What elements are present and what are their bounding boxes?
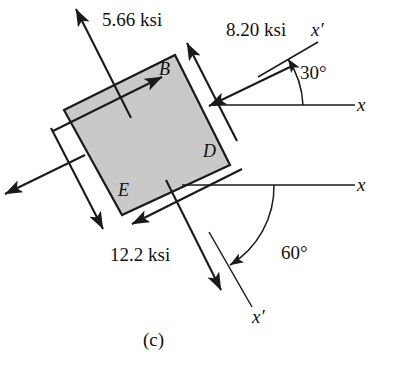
corner-label-d: D — [203, 142, 216, 160]
axis-label-xprime-upper: x′ — [311, 20, 324, 39]
stress-element-figure: 5.66 ksi 8.20 ksi 12.2 ksi x′ x x x′ 30°… — [0, 0, 400, 383]
axis-label-xprime-lower: x′ — [252, 307, 265, 326]
normal-stress-arrow-lower-left — [5, 155, 85, 194]
angle-label-30: 30° — [300, 63, 327, 82]
angle-arc-60 — [230, 185, 274, 265]
stress-label-8-20-ksi: 8.20 ksi — [226, 20, 286, 39]
axis-label-x-upper: x — [357, 95, 365, 114]
figure-canvas — [0, 0, 400, 383]
normal-stress-arrow-upper-right — [209, 67, 290, 106]
axis-line-xprime-lower — [209, 232, 252, 307]
corner-label-e: E — [118, 181, 129, 199]
axis-label-x-lower: x — [357, 175, 365, 194]
normal-stress-arrow-lower-right — [166, 180, 221, 290]
stress-label-12-2-ksi: 12.2 ksi — [110, 245, 170, 264]
angle-label-60: 60° — [281, 243, 308, 262]
stress-label-5-66-ksi: 5.66 ksi — [102, 10, 162, 29]
part-label: (c) — [143, 330, 164, 349]
corner-label-b: B — [159, 60, 170, 78]
